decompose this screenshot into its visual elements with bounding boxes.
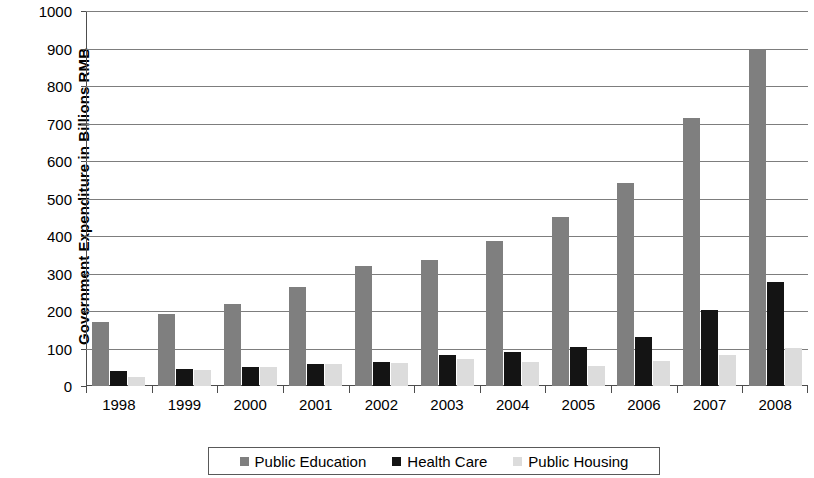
y-tick-label: 200 [2, 303, 72, 320]
bar-housing [325, 364, 342, 386]
bar-group [152, 11, 218, 386]
x-tick-label: 2006 [611, 396, 677, 413]
bar-group [217, 11, 283, 386]
x-tick-label: 1999 [152, 396, 218, 413]
plot-area: 01002003004005006007008009001000 [86, 11, 808, 386]
x-tick-mark [677, 386, 678, 393]
bar-housing [719, 355, 736, 387]
legend-label: Public Education [255, 453, 367, 470]
bar-housing [785, 348, 802, 386]
x-tick-cell [742, 386, 808, 394]
x-axis-labels: 1998199920002001200220032004200520062007… [86, 396, 808, 413]
x-tick-cell [414, 386, 480, 394]
x-tick-mark [480, 386, 481, 393]
bar-education [683, 118, 700, 386]
y-tick-label: 900 [2, 40, 72, 57]
bar-education [617, 183, 634, 386]
bar-group [742, 11, 808, 386]
x-tick-cell [217, 386, 283, 394]
bar-housing [260, 367, 277, 387]
x-tick-mark [349, 386, 350, 393]
bar-health [767, 282, 784, 386]
bar-health [110, 371, 127, 386]
x-tick-label: 2007 [677, 396, 743, 413]
bar-housing [588, 366, 605, 386]
bar-education [224, 304, 241, 386]
bar-health [307, 364, 324, 386]
legend-swatch-icon [392, 457, 401, 466]
y-tick-label: 400 [2, 228, 72, 245]
x-tick-mark [611, 386, 612, 393]
legend-entry[interactable]: Health Care [392, 453, 487, 470]
bar-chart-figure: Government Expenditure in Billions RMB 0… [0, 0, 814, 478]
x-tick-cell [86, 386, 152, 394]
bar-group [611, 11, 677, 386]
bar-group [545, 11, 611, 386]
bar-group [86, 11, 152, 386]
bar-groups [86, 11, 808, 386]
bar-health [373, 362, 390, 386]
x-tick-label: 2004 [480, 396, 546, 413]
x-tick-cell [611, 386, 677, 394]
y-tick-label: 700 [2, 115, 72, 132]
x-tick-cell [545, 386, 611, 394]
legend-swatch-icon [240, 457, 249, 466]
bar-education [355, 266, 372, 386]
x-tick-cell [480, 386, 546, 394]
legend-swatch-icon [513, 457, 522, 466]
y-tick-label: 800 [2, 78, 72, 95]
bar-group [414, 11, 480, 386]
legend-label: Health Care [407, 453, 487, 470]
bar-housing [653, 361, 670, 387]
x-tick-mark [545, 386, 546, 393]
bar-health [570, 347, 587, 386]
x-tick-label: 2001 [283, 396, 349, 413]
bar-health [701, 310, 718, 386]
bar-group [349, 11, 415, 386]
y-tick-label: 1000 [2, 3, 72, 20]
x-tick-mark [807, 386, 808, 393]
bar-housing [522, 362, 539, 386]
bar-health [242, 367, 259, 386]
bar-housing [391, 363, 408, 386]
bar-group [480, 11, 546, 386]
chart-legend: Public EducationHealth CarePublic Housin… [208, 447, 660, 475]
bar-group [677, 11, 743, 386]
x-tick-mark [217, 386, 218, 393]
x-tick-cell [283, 386, 349, 394]
bar-education [289, 287, 306, 386]
bar-education [158, 314, 175, 386]
y-tick-label: 100 [2, 340, 72, 357]
bar-housing [194, 370, 211, 386]
bar-health [635, 337, 652, 386]
y-tick-label: 500 [2, 190, 72, 207]
bar-health [176, 369, 193, 386]
bar-health [439, 355, 456, 386]
legend-entry[interactable]: Public Education [240, 453, 367, 470]
x-tick-mark [283, 386, 284, 393]
x-tick-label: 2003 [414, 396, 480, 413]
x-tick-cell [152, 386, 218, 394]
x-tick-label: 2000 [217, 396, 283, 413]
y-tick-label: 0 [2, 378, 72, 395]
x-tick-label: 2002 [349, 396, 415, 413]
bar-education [92, 322, 109, 387]
legend-label: Public Housing [528, 453, 628, 470]
bar-education [486, 241, 503, 386]
x-tick-cell [349, 386, 415, 394]
bar-housing [457, 359, 474, 386]
x-tick-mark [152, 386, 153, 393]
x-tick-mark [86, 386, 87, 393]
x-tick-mark [414, 386, 415, 393]
x-tick-mark [742, 386, 743, 393]
bar-housing [128, 377, 145, 386]
x-axis-ticks [86, 386, 808, 394]
bar-education [552, 217, 569, 387]
bar-health [504, 352, 521, 386]
y-tick-label: 600 [2, 153, 72, 170]
bar-education [749, 49, 766, 387]
x-tick-label: 2008 [742, 396, 808, 413]
bar-education [421, 260, 438, 386]
legend-entry[interactable]: Public Housing [513, 453, 628, 470]
x-tick-label: 1998 [86, 396, 152, 413]
